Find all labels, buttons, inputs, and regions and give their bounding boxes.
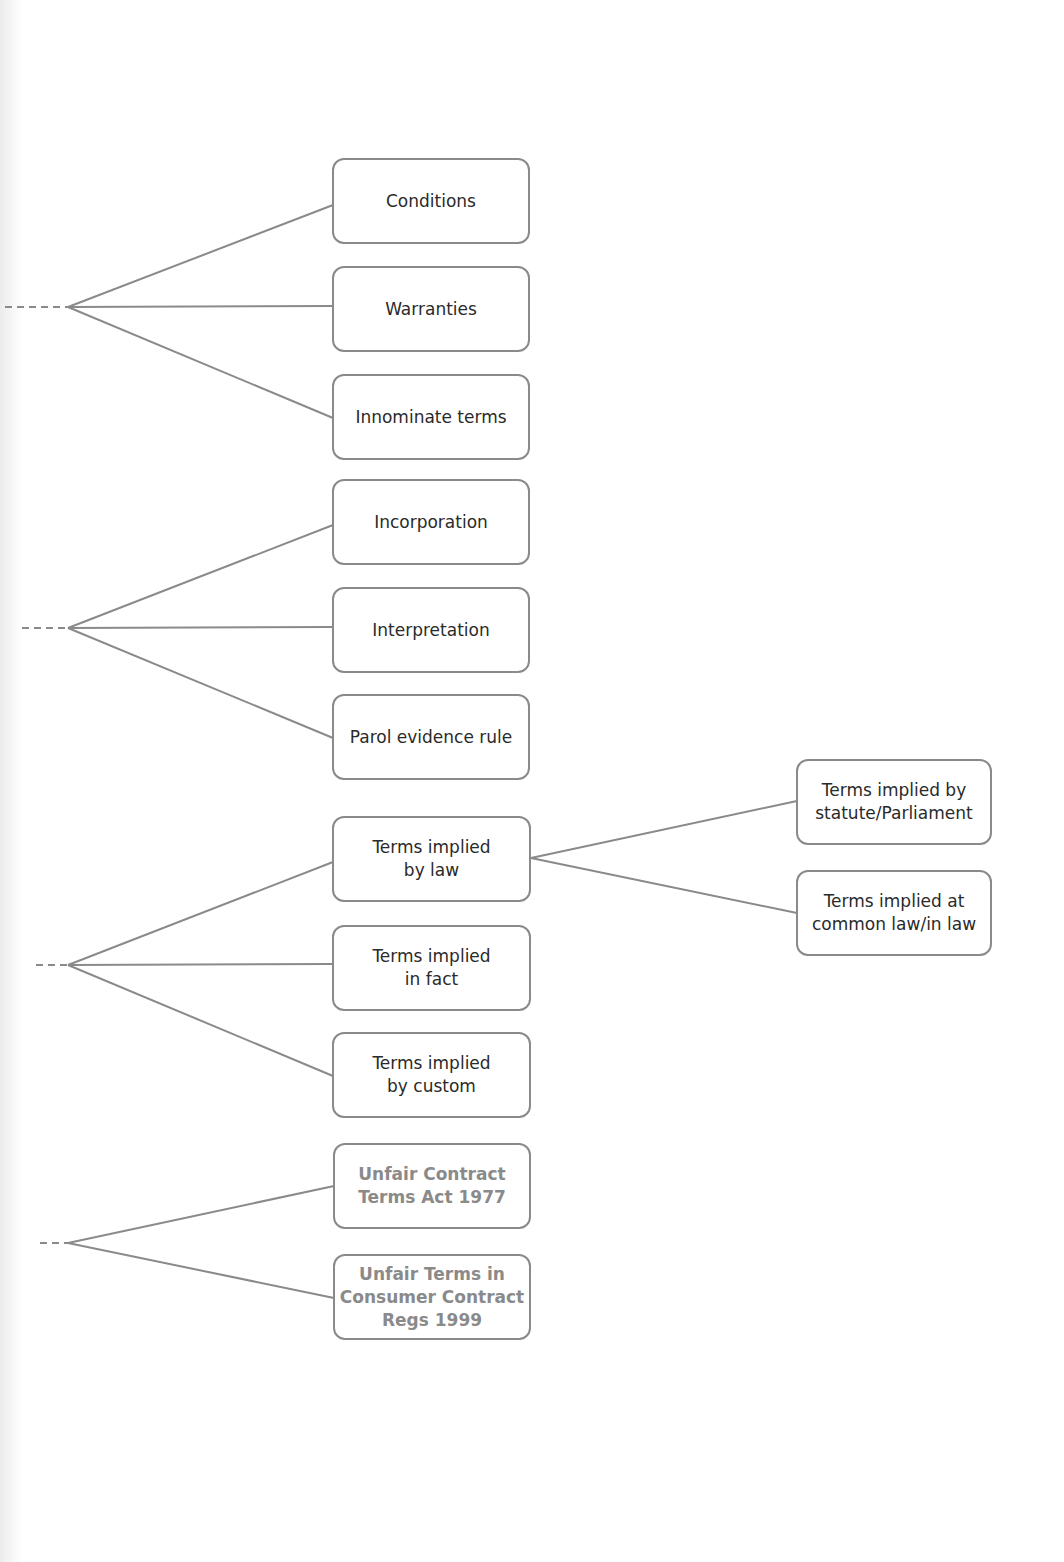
node-terms-implied-by-custom: Terms implied by custom (332, 1032, 531, 1118)
node-terms-implied-by-statute: Terms implied by statute/Parliament (796, 759, 992, 845)
node-unfair-terms-consumer-regs: Unfair Terms in Consumer Contract Regs 1… (333, 1254, 531, 1340)
node-unfair-contract-terms-act: Unfair Contract Terms Act 1977 (333, 1143, 531, 1229)
node-warranties: Warranties (332, 266, 530, 352)
node-parol-evidence-rule: Parol evidence rule (332, 694, 530, 780)
node-terms-implied-at-common-law: Terms implied at common law/in law (796, 870, 992, 956)
node-terms-implied-by-law: Terms implied by law (332, 816, 531, 902)
node-terms-implied-in-fact: Terms implied in fact (332, 925, 531, 1011)
node-incorporation: Incorporation (332, 479, 530, 565)
node-interpretation: Interpretation (332, 587, 530, 673)
node-conditions: Conditions (332, 158, 530, 244)
node-innominate-terms: Innominate terms (332, 374, 530, 460)
